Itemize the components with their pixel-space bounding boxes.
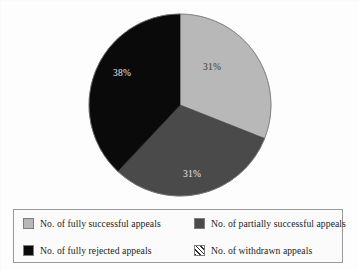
pie-label-fully-rejected: 38% bbox=[113, 68, 131, 78]
legend-label-fully-rejected: No. of fully rejected appeals bbox=[40, 245, 151, 256]
pie-chart: 31% 31% 38% bbox=[0, 0, 358, 205]
pie-label-fully-successful: 31% bbox=[203, 62, 221, 72]
legend-item-fully-successful[interactable]: No. of fully successful appeals bbox=[14, 210, 185, 237]
legend-item-withdrawn[interactable]: No. of withdrawn appeals bbox=[185, 237, 344, 264]
pie-chart-svg: 31% 31% 38% bbox=[0, 0, 358, 205]
legend-label-fully-successful: No. of fully successful appeals bbox=[40, 218, 161, 229]
pie-label-partially-successful: 31% bbox=[183, 169, 201, 179]
legend-swatch-withdrawn bbox=[194, 245, 205, 256]
legend-item-fully-rejected[interactable]: No. of fully rejected appeals bbox=[14, 237, 185, 264]
legend-item-partially-successful[interactable]: No. of partially successful appeals bbox=[185, 210, 344, 237]
legend-swatch-fully-successful bbox=[23, 218, 34, 229]
chart-legend: No. of fully successful appeals No. of p… bbox=[13, 209, 343, 263]
legend-label-partially-successful: No. of partially successful appeals bbox=[211, 218, 346, 229]
legend-swatch-partially-successful bbox=[194, 218, 205, 229]
legend-swatch-fully-rejected bbox=[23, 245, 34, 256]
legend-label-withdrawn: No. of withdrawn appeals bbox=[211, 245, 312, 256]
